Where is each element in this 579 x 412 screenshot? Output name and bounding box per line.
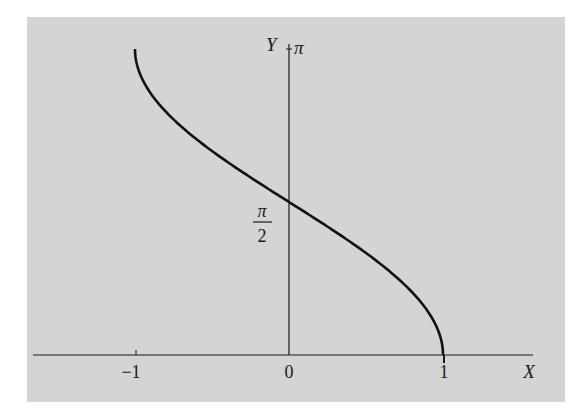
x-tick-label-0: 0 [285,362,294,382]
y-axis-label: Y [266,34,279,55]
y-tick-label-pi-half-den: 2 [258,226,267,246]
arccos-chart: Y π π 2 −1 0 1 X [0,0,579,412]
x-tick-label-1: 1 [440,362,449,382]
x-tick-label-neg1: −1 [121,362,140,382]
y-tick-label-pi: π [294,37,304,58]
x-axis-label: X [522,361,536,382]
y-tick-label-pi-half-num: π [257,201,267,221]
